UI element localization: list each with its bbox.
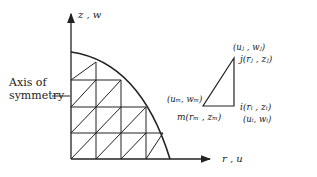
mesh-diagonal-line	[146, 133, 163, 159]
mesh-diagonal-line	[96, 80, 121, 107]
node-j-displacement: (uⱼ , wⱼ)	[233, 42, 265, 52]
node-i-coordinates: i(rᵢ , zᵢ)	[240, 102, 272, 112]
mesh-diagonal-line	[71, 133, 96, 159]
axisymmetric-mesh-diagram: z , w r , u Axis of symmetry (uⱼ , wⱼ) j…	[0, 0, 317, 177]
node-m-coordinates: m(rₘ , zₘ)	[177, 112, 222, 122]
mesh-diagonal-line	[96, 133, 121, 159]
z-axis-label: z , w	[77, 9, 102, 20]
mesh-diagonal-line	[96, 107, 121, 133]
mesh-diagonal-line	[121, 107, 146, 133]
mesh-diagonal-line	[71, 107, 96, 133]
element-triangle	[203, 58, 234, 106]
node-m-displacement: (uₘ, wₘ)	[167, 94, 202, 104]
axis-of-symmetry-label-line1: Axis of	[8, 76, 47, 89]
node-i-displacement: (uᵢ, wᵢ)	[243, 114, 271, 124]
node-j-coordinates: j(rⱼ , zⱼ)	[238, 54, 273, 64]
mesh-diagonal-line	[71, 62, 96, 80]
mesh-diagonal-line	[71, 80, 96, 107]
r-axis-label: r , u	[222, 153, 243, 164]
mesh-diagonal-line	[121, 133, 146, 159]
